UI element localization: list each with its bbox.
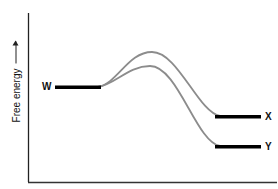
energy-diagram: Free energy W X Y: [0, 0, 278, 189]
curve-w-to-x: [98, 52, 220, 116]
state-label-w: W: [42, 82, 51, 92]
state-label-x: X: [265, 112, 272, 122]
level-bar-x: [215, 115, 261, 119]
state-label-y: Y: [265, 142, 272, 152]
y-axis-label: Free energy: [11, 42, 22, 123]
arrow-up-icon: [16, 42, 17, 64]
level-bar-w: [55, 86, 101, 90]
curve-w-to-y: [98, 66, 220, 146]
diagram-canvas: [0, 0, 278, 189]
level-bar-y: [215, 145, 261, 149]
y-axis-label-text: Free energy: [11, 69, 22, 123]
